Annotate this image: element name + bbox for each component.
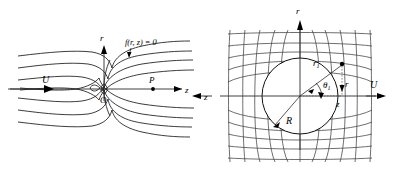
freestream-label-left: U [42, 74, 50, 85]
freestream-arrow-right [366, 93, 386, 99]
right-diagram-sphere-flow-net: r z U r1 θ1 r z [190, 0, 397, 176]
body-surface-equation: f(r, z) = 0 [125, 38, 158, 47]
freestream-label-right: U [370, 79, 378, 90]
z-cyl-label: z [335, 99, 340, 109]
point-p-label: P [148, 75, 155, 85]
theta1-label: θ1 [323, 80, 330, 91]
freestream-arrow-left [10, 85, 54, 93]
r-axis-label-left: r [100, 33, 104, 43]
r-arrowhead [340, 85, 345, 92]
z-axis-label-left: z [184, 85, 189, 95]
point-p-marker [151, 87, 155, 91]
theta1-arrowhead [318, 92, 324, 99]
radius-label: R [285, 115, 292, 126]
r-cyl-label: r [345, 79, 349, 89]
z-label-far-left: z [203, 92, 208, 102]
field-point-marker [340, 62, 344, 66]
r-axis-label-right: r [296, 6, 300, 16]
r1-subscript: 1 [317, 63, 320, 69]
r-axis-right [297, 20, 303, 150]
origin-label: O [100, 95, 107, 105]
theta1-subscript: 1 [327, 85, 330, 91]
left-diagram-rankine-body: U r O P f(r, z) = 0 z [0, 0, 200, 176]
figure-container: U r O P f(r, z) = 0 z [0, 0, 397, 176]
z-axis-left-arrow-right-panel: z [192, 92, 212, 102]
